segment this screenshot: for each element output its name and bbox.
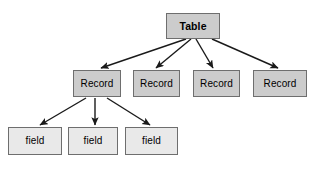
node-record-4[interactable]: Record bbox=[253, 70, 307, 97]
node-field-3-label: field bbox=[142, 136, 161, 146]
record-to-field-1 bbox=[40, 98, 86, 125]
table-to-record-4 bbox=[212, 39, 278, 68]
node-table-label: Table bbox=[179, 21, 206, 32]
node-field-3[interactable]: field bbox=[125, 127, 178, 155]
table-to-record-3 bbox=[196, 39, 213, 68]
node-record-3[interactable]: Record bbox=[193, 70, 240, 97]
node-record-4-label: Record bbox=[264, 79, 297, 89]
node-field-1-label: field bbox=[26, 136, 45, 146]
table-to-record-2 bbox=[156, 39, 191, 68]
node-record-2[interactable]: Record bbox=[133, 70, 180, 97]
node-field-1[interactable]: field bbox=[8, 127, 62, 155]
node-record-3-label: Record bbox=[200, 79, 233, 89]
record-to-field-3 bbox=[107, 98, 150, 125]
node-field-2-label: field bbox=[84, 136, 103, 146]
node-record-2-label: Record bbox=[140, 79, 173, 89]
node-record-1[interactable]: Record bbox=[73, 70, 121, 97]
node-table[interactable]: Table bbox=[166, 13, 220, 39]
node-record-1-label: Record bbox=[81, 79, 114, 89]
node-field-2[interactable]: field bbox=[68, 127, 118, 155]
diagram-canvas: Table Record Record Record Record field … bbox=[0, 0, 321, 173]
table-to-record-1 bbox=[101, 39, 186, 68]
